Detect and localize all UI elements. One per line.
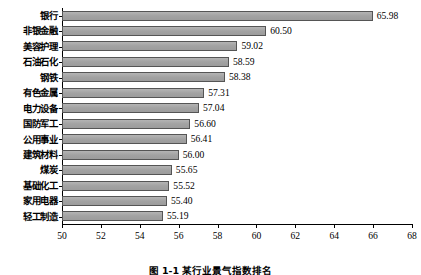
bar-value-label: 56.60 <box>194 118 216 130</box>
category-label: 轻工制造 <box>0 209 60 224</box>
bar[interactable] <box>62 211 163 221</box>
y-axis-tick <box>59 201 62 202</box>
y-axis-tick <box>59 31 62 32</box>
bar[interactable] <box>62 196 167 206</box>
x-axis-tick <box>334 224 335 228</box>
y-axis-tick <box>59 155 62 156</box>
category-label: 煤炭 <box>0 162 60 177</box>
x-axis-tick-label: 56 <box>174 230 184 242</box>
y-axis-tick <box>59 47 62 48</box>
x-axis-tick <box>140 224 141 228</box>
figure-bar-chart: 银行非银金融美容护理石油石化钢铁有色金属电力设备国防军工公用事业建筑材料煤炭基础… <box>0 0 421 275</box>
bar-value-label: 55.65 <box>176 164 198 176</box>
x-axis-tick <box>256 224 257 228</box>
bar[interactable] <box>62 11 373 21</box>
bar-row: 55.65 <box>62 163 412 178</box>
bar-value-label: 60.50 <box>270 25 292 37</box>
bar[interactable] <box>62 72 225 82</box>
x-axis-tick-label: 50 <box>57 230 67 242</box>
x-axis-tick <box>295 224 296 228</box>
bar[interactable] <box>62 26 266 36</box>
bar-row: 56.60 <box>62 116 412 131</box>
bar[interactable] <box>62 119 190 129</box>
bar-value-label: 56.00 <box>183 149 205 161</box>
x-axis-tick <box>412 224 413 228</box>
category-label: 钢铁 <box>0 70 60 85</box>
bar-value-label: 58.59 <box>233 56 255 68</box>
x-axis-tick <box>62 224 63 228</box>
y-axis-tick <box>59 62 62 63</box>
bar-value-label: 55.19 <box>167 210 189 222</box>
x-axis-tick-label: 64 <box>329 230 339 242</box>
bar-value-label: 55.40 <box>171 195 193 207</box>
bar-row: 58.59 <box>62 54 412 69</box>
bar[interactable] <box>62 57 229 67</box>
bar[interactable] <box>62 103 199 113</box>
y-axis-tick <box>59 217 62 218</box>
bar-row: 57.04 <box>62 101 412 116</box>
bar-row: 57.31 <box>62 85 412 100</box>
bar[interactable] <box>62 41 237 51</box>
bar[interactable] <box>62 165 172 175</box>
x-axis-tick-label: 58 <box>213 230 223 242</box>
bar-row: 56.41 <box>62 132 412 147</box>
bar-value-label: 57.04 <box>203 102 225 114</box>
bar-row: 58.38 <box>62 70 412 85</box>
bar-value-label: 65.98 <box>377 10 399 22</box>
y-axis-tick <box>59 139 62 140</box>
x-axis-tick-label: 62 <box>291 230 301 242</box>
x-axis-tick <box>218 224 219 228</box>
bar[interactable] <box>62 181 169 191</box>
x-axis-tick-label: 68 <box>407 230 417 242</box>
y-axis-tick <box>59 108 62 109</box>
category-label: 公用事业 <box>0 132 60 147</box>
bar-row: 59.02 <box>62 39 412 54</box>
bar-value-label: 56.41 <box>191 133 213 145</box>
plot-area: 65.9860.5059.0258.5958.3857.3157.0456.60… <box>62 8 412 224</box>
category-axis-labels: 银行非银金融美容护理石油石化钢铁有色金属电力设备国防军工公用事业建筑材料煤炭基础… <box>0 8 60 224</box>
category-label: 有色金属 <box>0 85 60 100</box>
category-label: 家用电器 <box>0 193 60 208</box>
x-axis-tick-label: 66 <box>368 230 378 242</box>
category-label: 银行 <box>0 8 60 23</box>
bar-value-label: 58.38 <box>229 71 251 83</box>
category-label: 基础化工 <box>0 178 60 193</box>
bar[interactable] <box>62 134 187 144</box>
y-axis-tick <box>59 93 62 94</box>
bar-row: 65.98 <box>62 8 412 23</box>
bar-row: 55.52 <box>62 178 412 193</box>
category-label: 石油石化 <box>0 54 60 69</box>
bar-row: 56.00 <box>62 147 412 162</box>
category-label: 国防军工 <box>0 116 60 131</box>
category-label: 美容护理 <box>0 39 60 54</box>
bar-row: 55.40 <box>62 193 412 208</box>
x-axis-tick <box>179 224 180 228</box>
x-axis-tick <box>101 224 102 228</box>
bar-row: 60.50 <box>62 23 412 38</box>
x-axis-tick-label: 52 <box>96 230 106 242</box>
bar-value-label: 59.02 <box>241 40 263 52</box>
category-label: 建筑材料 <box>0 147 60 162</box>
y-axis-tick <box>59 186 62 187</box>
category-label: 非银金融 <box>0 23 60 38</box>
bar[interactable] <box>62 150 179 160</box>
figure-caption: 图 1-1 某行业景气指数排名 <box>0 265 421 275</box>
category-label: 电力设备 <box>0 101 60 116</box>
x-axis-tick <box>373 224 374 228</box>
y-axis-tick <box>59 16 62 17</box>
bar[interactable] <box>62 88 204 98</box>
y-axis-tick <box>59 170 62 171</box>
x-axis-tick-label: 60 <box>252 230 262 242</box>
y-axis-tick <box>59 78 62 79</box>
bar-value-label: 55.52 <box>173 180 195 192</box>
x-axis-line <box>62 224 412 225</box>
x-axis-tick-label: 54 <box>135 230 145 242</box>
bar-row: 55.19 <box>62 209 412 224</box>
y-axis-tick <box>59 124 62 125</box>
bar-value-label: 57.31 <box>208 87 230 99</box>
